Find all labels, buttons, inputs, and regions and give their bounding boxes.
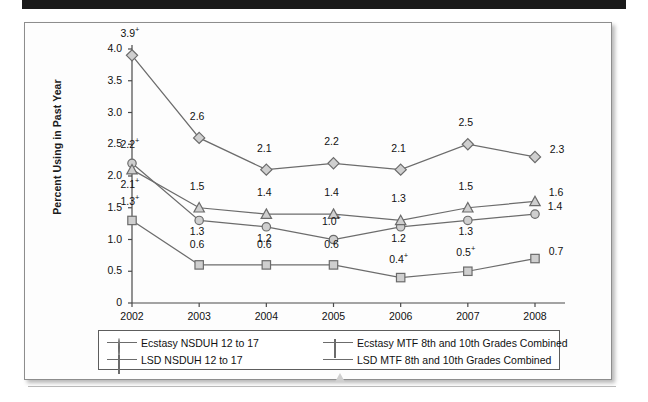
legend-marker-square-icon <box>107 353 137 367</box>
data-point-label: 2.1 <box>246 142 282 154</box>
data-point-label: 0.6 <box>246 238 282 250</box>
data-point-label: 2.5 <box>448 116 484 128</box>
data-point-label: 1.5 <box>179 180 215 192</box>
page-footer-rule <box>28 386 616 387</box>
data-point-label: 1.3 <box>179 225 215 237</box>
legend-marker-triangle-icon <box>323 353 353 367</box>
data-point-label: 1.4 <box>537 200 573 212</box>
page-header-bar <box>22 0 626 9</box>
data-point-label: 0.6 <box>179 238 215 250</box>
legend-entry[interactable]: Ecstasy MTF 8th and 10th Grades Combined <box>323 334 568 352</box>
legend-label: Ecstasy MTF 8th and 10th Grades Combined <box>353 337 568 349</box>
data-point-label: 1.6 <box>538 186 574 198</box>
chart-plot-area: Percent Using in Past Year 4.03.53.02.52… <box>25 23 613 381</box>
data-point-label: 2.2+ <box>112 136 148 150</box>
legend-entry[interactable]: Ecstasy NSDUH 12 to 17 <box>107 334 259 352</box>
data-point-label: 2.6 <box>179 110 215 122</box>
data-point-label: 2.1 <box>381 142 417 154</box>
legend-marker-circle-icon <box>107 336 137 350</box>
data-point-label: 0.5+ <box>448 244 484 258</box>
data-point-label: 1.3+ <box>112 193 148 207</box>
legend-label: LSD MTF 8th and 10th Grades Combined <box>353 354 551 366</box>
data-point-label: 1.0+ <box>314 213 350 227</box>
data-point-label: 0.6 <box>314 238 350 250</box>
figure-frame: Percent Using in Past Year 4.03.53.02.52… <box>24 22 612 380</box>
data-point-label: 2.1+ <box>112 176 148 190</box>
chart-legend: Ecstasy NSDUH 12 to 17Ecstasy MTF 8th an… <box>98 330 560 370</box>
data-point-label: 2.2 <box>314 135 350 147</box>
data-point-label: 1.3 <box>381 192 417 204</box>
data-point-label: 1.5 <box>448 180 484 192</box>
data-point-label: 1.2 <box>381 232 417 244</box>
data-point-label: 1.3 <box>448 225 484 237</box>
data-point-label: 0.7 <box>538 245 574 257</box>
data-point-label: 1.4 <box>314 186 350 198</box>
legend-marker-diamond-icon <box>323 336 353 350</box>
data-point-label: 2.3 <box>539 143 575 155</box>
legend-label: Ecstasy NSDUH 12 to 17 <box>137 337 259 349</box>
data-point-label: 3.9+ <box>112 25 148 39</box>
legend-entry[interactable]: LSD MTF 8th and 10th Grades Combined <box>323 351 551 369</box>
legend-label: LSD NSDUH 12 to 17 <box>137 354 243 366</box>
data-point-label: 0.4+ <box>381 251 417 265</box>
legend-entry[interactable]: LSD NSDUH 12 to 17 <box>107 351 243 369</box>
data-point-label: 1.4 <box>246 186 282 198</box>
